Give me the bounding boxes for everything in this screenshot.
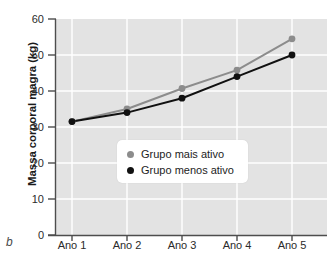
- legend-marker-icon-grupo-mais-ativo: [127, 151, 134, 158]
- legend-item-grupo-menos-ativo: Grupo menos ativo: [127, 163, 234, 177]
- x-tick-label-ano-1: Ano 1: [42, 240, 102, 251]
- x-axis-tick-labels: Ano 1 Ano 2 Ano 3 Ano 4 Ano 5: [0, 0, 327, 260]
- x-tick-label-ano-5: Ano 5: [262, 240, 322, 251]
- lean-body-mass-line-chart: Massa corporal magra (kg) 60 50 40 30 20…: [0, 0, 327, 260]
- legend-item-grupo-mais-ativo: Grupo mais ativo: [127, 147, 224, 161]
- x-tick-label-ano-3: Ano 3: [152, 240, 212, 251]
- legend-label-grupo-menos-ativo: Grupo menos ativo: [141, 165, 234, 176]
- chart-legend: Grupo mais ativo Grupo menos ativo: [117, 140, 248, 183]
- legend-marker-icon-grupo-menos-ativo: [127, 167, 134, 174]
- panel-letter-label: b: [6, 236, 13, 248]
- legend-label-grupo-mais-ativo: Grupo mais ativo: [141, 149, 224, 160]
- x-tick-label-ano-4: Ano 4: [207, 240, 267, 251]
- x-tick-label-ano-2: Ano 2: [97, 240, 157, 251]
